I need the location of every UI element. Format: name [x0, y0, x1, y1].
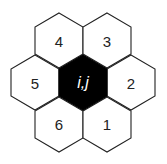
hex-neighborhood-diagram: 4 3 5 2 6 1 i,j: [0, 0, 167, 164]
cell-label-4: 4: [55, 33, 63, 50]
cell-label-1: 1: [103, 116, 111, 133]
cell-label-2: 2: [127, 75, 135, 92]
cell-label-5: 5: [31, 75, 39, 92]
cell-label-center: i,j: [77, 74, 89, 91]
cell-label-6: 6: [55, 116, 63, 133]
cell-label-3: 3: [103, 33, 111, 50]
